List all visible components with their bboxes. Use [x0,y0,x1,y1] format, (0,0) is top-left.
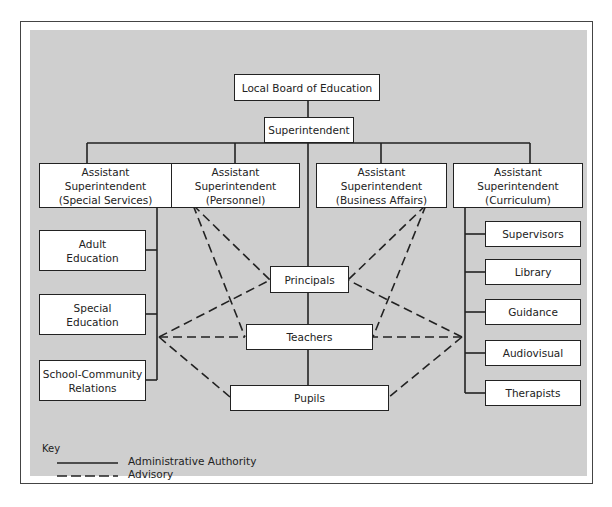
guidance-label: Guidance [508,305,558,319]
node-audiovisual: Audiovisual [485,340,581,366]
therapists-label: Therapists [506,386,561,400]
asst-curriculum-line2: (Curriculum) [454,193,582,207]
special-education-line2: Education [66,315,118,329]
asst-special-line1: Assistant Superintendent [40,165,171,193]
node-therapists: Therapists [485,380,581,406]
pupils-label: Pupils [294,391,325,405]
node-asst-curriculum: Assistant Superintendent (Curriculum) [453,163,583,208]
adult-education-line1: Adult [66,237,118,251]
supervisors-label: Supervisors [502,227,564,241]
node-board: Local Board of Education [234,74,380,101]
key-dashed-label: Advisory [128,468,173,480]
node-special-education: Special Education [39,294,146,335]
node-supervisors: Supervisors [485,221,581,247]
asst-personnel-line2: (Personnel) [172,193,299,207]
node-board-label: Local Board of Education [242,81,372,95]
node-library: Library [485,259,581,285]
key-solid-label: Administrative Authority [128,455,256,467]
asst-curriculum-line1: Assistant Superintendent [454,165,582,193]
principals-label: Principals [284,273,334,287]
asst-special-line2: (Special Services) [40,193,171,207]
adult-education-line2: Education [66,251,118,265]
library-label: Library [515,265,552,279]
node-principals: Principals [270,266,349,293]
node-asst-special-services: Assistant Superintendent (Special Servic… [39,163,172,208]
key-title: Key [42,443,60,454]
asst-business-line2: (Business Affairs) [317,193,446,207]
school-community-line1: School-Community [43,367,142,381]
asst-personnel-line1: Assistant Superintendent [172,165,299,193]
school-community-line2: Relations [43,381,142,395]
node-asst-personnel: Assistant Superintendent (Personnel) [171,163,300,208]
node-pupils: Pupils [230,385,389,411]
node-teachers: Teachers [246,324,373,350]
node-asst-business-affairs: Assistant Superintendent (Business Affai… [316,163,447,208]
asst-business-line1: Assistant Superintendent [317,165,446,193]
special-education-line1: Special [66,301,118,315]
node-adult-education: Adult Education [39,230,146,271]
audiovisual-label: Audiovisual [503,346,563,360]
teachers-label: Teachers [286,330,332,344]
node-superintendent-label: Superintendent [268,123,349,137]
node-guidance: Guidance [485,299,581,325]
node-school-community-relations: School-Community Relations [39,360,146,401]
node-superintendent: Superintendent [264,117,354,143]
